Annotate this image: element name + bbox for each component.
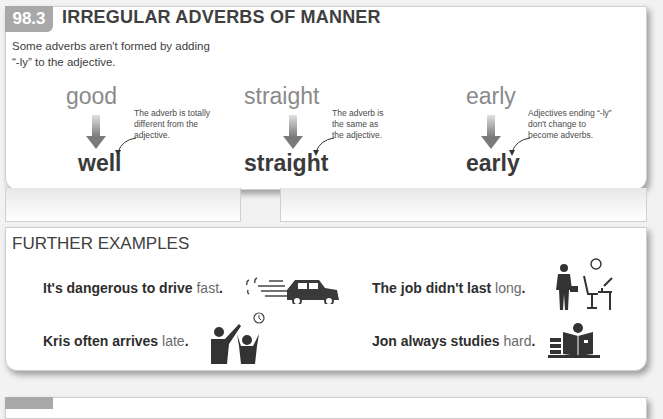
down-arrow-icon	[283, 115, 303, 150]
late-arrival-clock-icon	[203, 312, 271, 366]
curved-pointer-icon	[506, 136, 532, 158]
down-arrow-icon	[481, 115, 501, 150]
section-title: IRREGULAR ADVERBS OF MANNER	[62, 7, 381, 28]
note-col2: The adverb is the same as the adjective.	[332, 108, 390, 141]
speeding-car-icon	[243, 272, 343, 304]
curved-pointer-icon	[112, 136, 138, 158]
intro-text: Some adverbs aren't formed by adding “-l…	[12, 38, 212, 70]
note-col1: The adverb is totally different from the…	[134, 108, 214, 141]
example-sentence-fast: It's dangerous to drive fast.	[43, 280, 223, 296]
curved-pointer-icon	[310, 136, 336, 158]
next-section-badge	[5, 397, 53, 409]
note-col3: Adjectives ending “-ly” don't change to …	[528, 108, 618, 141]
student-reading-books-icon	[548, 322, 600, 358]
down-arrow-icon	[86, 115, 106, 150]
section-number-badge: 98.3	[5, 6, 53, 32]
adjective-early: early	[466, 83, 516, 110]
adjective-good: good	[66, 83, 117, 110]
next-section-panel	[5, 397, 647, 419]
further-examples-title: FURTHER EXAMPLES	[12, 234, 189, 254]
example-sentence-late: Kris often arrives late.	[43, 333, 189, 349]
example-sentence-hard: Jon always studies hard.	[372, 333, 535, 349]
businessman-leaving-desk-icon	[554, 256, 616, 312]
panel-connector-right	[280, 188, 647, 222]
example-sentence-long: The job didn't last long.	[372, 280, 525, 296]
adjective-straight: straight	[244, 83, 319, 110]
panel-connector-left	[5, 188, 241, 222]
